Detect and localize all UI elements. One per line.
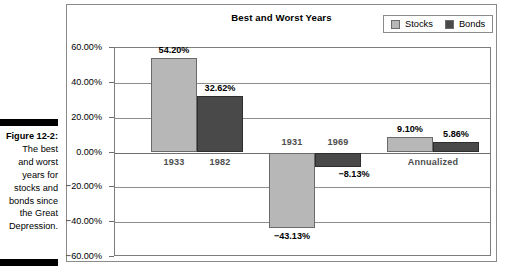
caption-line-3: years for [0, 169, 58, 182]
y-axis-label: 60.00% [50, 42, 102, 52]
legend-swatch-bonds-icon [445, 20, 454, 29]
bar-annualized-stocks[interactable] [387, 137, 433, 153]
caption-line-5: bonds since [0, 195, 58, 208]
category-label-1933: 1933 [163, 157, 184, 167]
y-axis-label: −20.00% [50, 181, 102, 191]
bar-annualized-bonds[interactable] [433, 142, 479, 152]
y-axis-tick [109, 256, 114, 257]
y-axis-label: 40.00% [50, 77, 102, 87]
legend-swatch-stocks-icon [391, 20, 400, 29]
y-axis-label: −60.00% [50, 251, 102, 261]
category-label-annualized: Annualized [408, 157, 459, 167]
legend-label-bonds: Bonds [459, 19, 485, 29]
value-label-worst-year-bonds: −8.13% [338, 169, 369, 179]
legend-entry-bonds: Bonds [445, 19, 485, 29]
value-label-annualized-bonds: 5.86% [443, 129, 469, 139]
category-label-1969: 1969 [327, 137, 348, 147]
y-axis-label: −40.00% [50, 216, 102, 226]
caption-figure-number: Figure 12-2: [0, 130, 58, 143]
value-label-worst-year-stocks: −43.13% [274, 231, 310, 241]
value-label-best-year-bonds: 32.62% [205, 83, 236, 93]
bar-best-year-bonds[interactable] [197, 96, 243, 153]
bar-worst-year-bonds[interactable] [315, 153, 361, 167]
legend-entry-stocks: Stocks [391, 19, 433, 29]
category-label-1931: 1931 [281, 137, 302, 147]
category-label-1982: 1982 [209, 157, 230, 167]
y-axis-label: 20.00% [50, 112, 102, 122]
chart-legend: Stocks Bonds [383, 15, 493, 33]
value-label-best-year-stocks: 54.20% [159, 45, 190, 55]
legend-label-stocks: Stocks [405, 19, 433, 29]
bar-worst-year-stocks[interactable] [269, 153, 315, 228]
plot-area: 54.20%193332.62%1982−43.13%1931−8.13%196… [114, 47, 491, 256]
y-axis-label: 0.00% [50, 147, 102, 157]
caption-line-2: and worst [0, 156, 58, 169]
value-label-annualized-stocks: 9.10% [397, 124, 423, 134]
chart-frame: Best and Worst Years Stocks Bonds 60.00%… [66, 4, 497, 262]
bar-best-year-stocks[interactable] [151, 58, 197, 152]
